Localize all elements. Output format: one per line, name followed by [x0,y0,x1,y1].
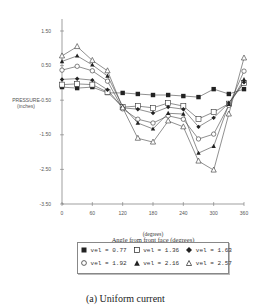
open-square-icon [134,247,140,253]
filled-diamond-marker-icon [90,78,94,82]
legend-item-vel-077: vel = 0.77 [81,247,130,254]
open-circle-marker-icon [75,64,79,68]
x-tick-label: 180 [149,210,158,216]
open-square-marker-icon [211,109,216,114]
series-markers [60,85,246,99]
legend-label: vel = 2.16 [143,260,179,267]
pressure-chart: 1.500.50-0.50-1.50-2.50-3.50060120180240… [0,0,266,240]
open-triangle-marker-icon [226,111,231,116]
open-square-marker-icon [151,105,156,110]
filled-square-marker-icon [242,87,246,91]
filled-square-marker-icon [211,87,215,91]
legend-label: vel = 1.36 [143,247,179,254]
open-triangle-marker-icon [105,68,110,73]
legend-row-2: vel = 1.92 vel = 2.16 vel = 2.57 [81,260,235,267]
legend-item-vel-163: vel = 1.63 [186,247,235,254]
legend-label: vel = 0.77 [91,247,127,254]
x-tick-label: 360 [240,210,249,216]
open-triangle-marker-icon [241,55,246,60]
filled-square-marker-icon [196,95,200,99]
filled-triangle-icon [134,260,140,266]
open-triangle-marker-icon [90,57,95,62]
x-tick-label: 120 [118,210,127,216]
filled-diamond-marker-icon [75,77,79,81]
open-circle-marker-icon [181,117,185,121]
open-square-marker-icon [196,116,201,121]
open-circle-marker-icon [90,69,94,73]
legend-item-vel-216: vel = 2.16 [134,260,183,267]
filled-triangle-marker-icon [90,62,94,66]
filled-square-marker-icon [136,92,140,96]
series-markers [60,80,247,121]
filled-triangle-marker-icon [242,77,246,81]
open-square-marker-icon [75,81,80,86]
legend-item-vel-257: vel = 2.57 [186,260,235,267]
chart-axes: 1.500.50-0.50-1.50-2.50-3.50060120180240… [40,19,249,216]
filled-square-marker-icon [227,92,231,96]
x-tick-label: 300 [209,210,218,216]
open-circle-marker-icon [60,68,64,72]
open-square-marker-icon [166,100,171,105]
open-triangle-marker-icon [211,167,216,172]
legend-label: vel = 1.92 [91,260,127,267]
legend-row-1: vel = 0.77 vel = 1.36 vel = 1.63 [81,247,235,254]
open-circle-marker-icon [196,137,200,141]
open-circle-marker-icon [151,121,155,125]
open-circle-marker-icon [105,79,109,83]
y-tick-label: 1.50 [41,28,51,34]
open-triangle-marker-icon [196,158,201,163]
filled-triangle-marker-icon [196,151,200,155]
open-square-marker-icon [90,82,95,87]
legend-label: vel = 1.63 [196,247,232,254]
x-tick-label: 240 [179,210,188,216]
filled-diamond-marker-icon [60,77,64,81]
open-triangle-marker-icon [75,44,80,49]
legend-item-vel-136: vel = 1.36 [134,247,183,254]
filled-triangle-marker-icon [75,53,79,57]
open-circle-marker-icon [211,132,215,136]
filled-triangle-marker-icon [211,144,215,148]
y-tick-label: -3.50 [40,201,52,207]
filled-square-icon [81,247,87,253]
legend-item-vel-192: vel = 1.92 [81,260,130,267]
filled-square-marker-icon [166,93,170,97]
y-tick-label: -1.50 [40,131,52,137]
filled-square-marker-icon [181,94,185,98]
filled-square-marker-icon [151,93,155,97]
x-tick-label: 60 [90,210,96,216]
open-circle-icon [81,260,87,266]
series-163 [62,79,244,127]
y-axis-unit: (inches) [17,103,35,109]
open-square-marker-icon [60,82,65,87]
chart-legend: vel = 0.77 vel = 1.36 vel = 1.63 vel = 1… [77,242,229,274]
open-triangle-icon [186,260,192,266]
y-tick-label: 0.50 [41,62,51,68]
open-triangle-marker-icon [166,118,171,123]
series-line [62,79,244,127]
filled-diamond-marker-icon [151,111,155,115]
filled-square-marker-icon [120,91,124,95]
y-tick-label: -0.50 [40,97,52,103]
open-circle-marker-icon [242,69,246,73]
figure-caption: (a) Uniform current [86,293,165,304]
x-tick-label: 0 [61,210,64,216]
filled-diamond-icon [186,247,192,253]
chart-series [59,44,246,173]
open-triangle-marker-icon [135,135,140,140]
legend-label: vel = 2.57 [196,260,232,267]
open-triangle-marker-icon [59,53,64,58]
filled-triangle-marker-icon [166,111,170,115]
y-tick-label: -2.50 [40,166,52,172]
